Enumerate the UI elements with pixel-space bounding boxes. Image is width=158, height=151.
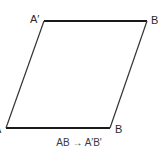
vertex-label-b-prime: B′ [151,15,158,26]
vertex-label-a: A [0,124,1,135]
segment-a-a-prime [6,21,44,128]
vertex-label-a-prime: A′ [30,14,39,25]
figure-caption: AB → A′B′ [0,138,158,148]
vertex-label-b: B [115,124,122,135]
segment-b-b-prime [110,21,147,128]
parallelogram-figure [0,0,158,151]
